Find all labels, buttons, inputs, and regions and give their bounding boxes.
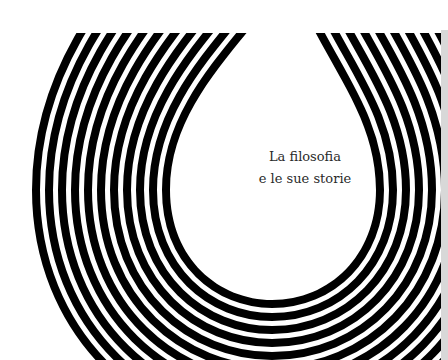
- title-line-2: e le sue storie: [230, 168, 380, 190]
- title-line-1: La filosofia: [230, 146, 380, 168]
- cover-title: La filosofia e le sue storie: [230, 146, 380, 190]
- striped-arc-artwork: [0, 0, 448, 360]
- book-cover: La filosofia e le sue storie: [0, 0, 448, 360]
- book-spine-edge: [441, 30, 448, 360]
